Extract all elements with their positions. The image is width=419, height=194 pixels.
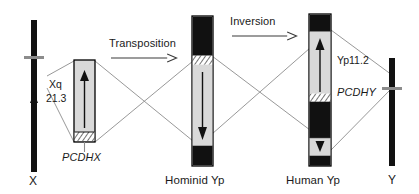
human-yp-bottom-band <box>310 156 331 166</box>
chromosome-x <box>24 20 44 172</box>
hominid-yp-bottom-band <box>193 146 213 166</box>
chromosome-rearrangement-figure: Transposition Inversion Xq 21.3 PCDHX Yp… <box>0 0 419 194</box>
chromosome-y-caption: Y <box>388 174 396 187</box>
x-region-box <box>74 60 95 152</box>
hominid-yp-hatch <box>193 56 213 65</box>
chromosome-hominid-yp-caption: Hominid Yp <box>165 174 224 186</box>
human-yp-top-band <box>310 15 331 32</box>
human-yp-hatch <box>310 94 331 102</box>
chromosome-human-yp <box>309 14 331 166</box>
chromosome-hominid-yp <box>192 16 213 166</box>
human-yp-gene-label: PCDHY <box>337 87 376 99</box>
x-region-gene-label: PCDHX <box>62 152 101 164</box>
x-region-band-label-line2: 21.3 <box>46 93 66 104</box>
human-yp-band-label: Yp11.2 <box>337 55 369 66</box>
chromosome-y <box>382 58 402 166</box>
x-region-band-label-line1: Xq <box>49 79 62 90</box>
hominid-yp-top-band <box>193 17 213 56</box>
connectors-hominid-to-human <box>212 48 310 134</box>
chromosome-human-yp-caption: Human Yp <box>286 174 340 186</box>
chromosome-x-caption: X <box>29 175 37 188</box>
transposition-label: Transposition <box>109 38 176 50</box>
human-yp-mid-black-band <box>310 102 331 138</box>
connectors-x-to-hominid <box>47 61 193 142</box>
x-region-hatch <box>75 132 95 141</box>
inversion-label: Inversion <box>230 16 276 28</box>
